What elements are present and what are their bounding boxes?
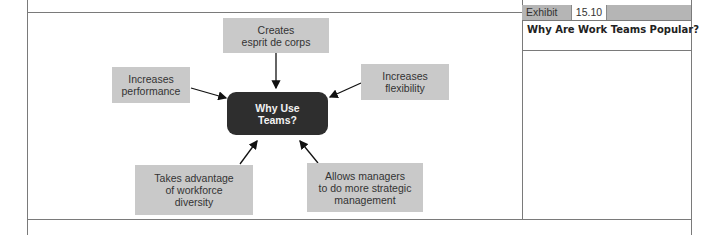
node-increases-flexibility: Increases flexibility [361, 64, 449, 100]
node-increases-performance: Increases performance [112, 67, 190, 103]
node-workforce-diversity: Takes advantage of workforce diversity [135, 165, 253, 215]
node-creates-esprit-de-corps: Creates esprit de corps [223, 18, 329, 53]
arrow-right [330, 83, 361, 97]
arrow-bottom-left [240, 141, 257, 164]
center-why-use-teams: Why Use Teams? [227, 92, 328, 135]
arrow-left [191, 88, 226, 98]
node-strategic-management: Allows managers to do more strategic man… [307, 163, 423, 212]
arrow-bottom-right [300, 141, 318, 163]
